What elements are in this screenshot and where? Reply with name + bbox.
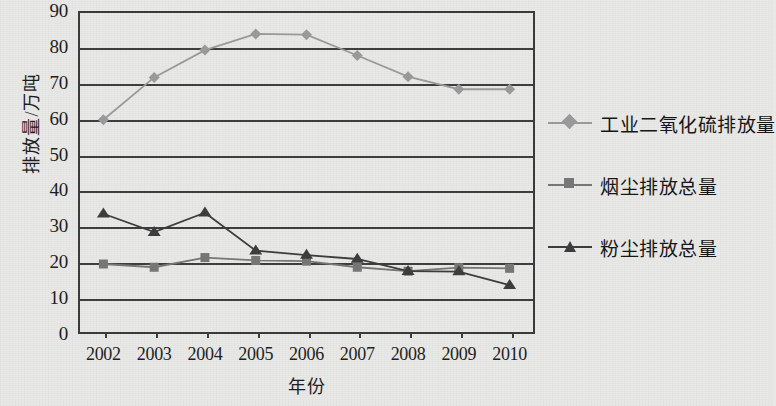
- x-axis-tick-mark: [156, 332, 158, 338]
- x-axis-tick-mark: [410, 332, 412, 338]
- legend-item[interactable]: 粉尘排放总量: [548, 216, 773, 278]
- legend-swatch: [548, 176, 592, 194]
- legend-swatch: [548, 238, 592, 256]
- x-axis-tick-mark: [461, 332, 463, 338]
- legend-label: 工业二氧化硫排放量: [600, 110, 776, 137]
- gridline: [80, 263, 533, 265]
- legend-swatch: [548, 114, 592, 132]
- x-axis-tick-mark: [359, 332, 361, 338]
- x-axis-tick-mark: [258, 332, 260, 338]
- y-axis-tick-label: 50: [28, 145, 68, 164]
- plot-area: [78, 11, 535, 334]
- y-axis-tick-label: 0: [28, 324, 68, 343]
- y-axis-tick-label: 20: [28, 252, 68, 271]
- y-axis-tick-label: 40: [28, 180, 68, 199]
- x-axis-tick-mark: [207, 332, 209, 338]
- legend-label: 粉尘排放总量: [600, 234, 717, 261]
- y-axis-tick-label: 30: [28, 216, 68, 235]
- gridline: [80, 120, 533, 122]
- x-axis-tick-label: 2010: [480, 344, 540, 365]
- y-axis-tick-label: 80: [28, 37, 68, 56]
- legend-item[interactable]: 烟尘排放总量: [548, 154, 773, 216]
- y-axis-tick-label: 10: [28, 288, 68, 307]
- gridline: [80, 48, 533, 50]
- legend-item[interactable]: 工业二氧化硫排放量: [548, 92, 773, 154]
- y-axis-tick-label: 90: [28, 1, 68, 20]
- legend: 工业二氧化硫排放量烟尘排放总量粉尘排放总量: [548, 92, 773, 278]
- square-marker-icon: [564, 178, 574, 188]
- diamond-marker-icon: [562, 114, 578, 130]
- gridline: [80, 156, 533, 158]
- gridline: [80, 299, 533, 301]
- triangle-marker-icon: [564, 241, 576, 252]
- y-axis-tick-label: 70: [28, 73, 68, 92]
- gridline: [80, 227, 533, 229]
- x-axis-tick-mark: [105, 332, 107, 338]
- gridline: [80, 191, 533, 193]
- gridline: [80, 84, 533, 86]
- x-axis-tick-mark: [512, 332, 514, 338]
- legend-label: 烟尘排放总量: [600, 172, 717, 199]
- x-axis-tick-mark: [309, 332, 311, 338]
- y-axis-tick-label: 60: [28, 109, 68, 128]
- x-axis-title: 年份: [78, 372, 535, 398]
